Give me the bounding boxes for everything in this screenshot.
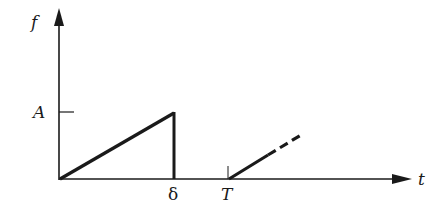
x-axis-label: t [418,169,425,189]
amplitude-label: A [31,102,45,122]
next-ramp-dashed [268,135,301,155]
ramp-line [60,113,174,179]
waveform-svg: f t A δ T [0,0,448,214]
y-axis-label: f [29,12,40,32]
pulse-width-label: δ [168,184,178,204]
period-label: T [221,184,234,204]
x-axis-arrow-icon [392,174,412,184]
waveform-diagram: f t A δ T [0,0,448,214]
y-axis-arrow-icon [54,8,64,26]
next-ramp-solid [229,155,268,179]
